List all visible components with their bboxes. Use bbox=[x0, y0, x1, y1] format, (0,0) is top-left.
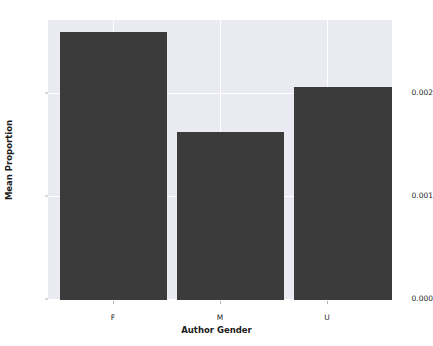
bar-M[interactable] bbox=[177, 132, 284, 300]
plot-area bbox=[48, 20, 392, 300]
bar-chart-figure: 0.000 0.001 0.002 F M U Author Gender Me… bbox=[0, 0, 433, 346]
x-tick-label-F: F bbox=[111, 314, 115, 322]
x-tick-mark-2 bbox=[327, 301, 328, 304]
x-tick-mark-0 bbox=[113, 301, 114, 304]
x-tick-label-M: M bbox=[217, 314, 223, 322]
y-axis-title: Mean Proportion bbox=[4, 20, 18, 300]
x-tick-label-U: U bbox=[324, 314, 330, 322]
x-tick-mark-1 bbox=[220, 301, 221, 304]
bar-U[interactable] bbox=[294, 87, 392, 300]
y-tick-label-0: 0.000 bbox=[389, 295, 433, 303]
x-axis-title: Author Gender bbox=[0, 325, 433, 335]
y-tick-label-2: 0.002 bbox=[389, 89, 433, 97]
bar-F[interactable] bbox=[60, 32, 167, 300]
y-tick-label-1: 0.001 bbox=[389, 192, 433, 200]
